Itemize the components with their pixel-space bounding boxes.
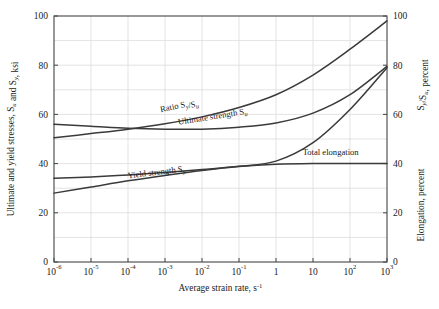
y-axis-right-lower-title: Elongation, percent — [416, 168, 426, 241]
svg-text:20: 20 — [393, 208, 403, 218]
curve-label: Total elongation — [303, 147, 360, 157]
svg-text:100: 100 — [34, 11, 49, 21]
svg-text:80: 80 — [393, 61, 403, 71]
svg-text:1: 1 — [274, 267, 279, 277]
svg-text:60: 60 — [393, 110, 403, 120]
svg-text:80: 80 — [39, 61, 49, 71]
svg-text:100: 100 — [393, 11, 408, 21]
svg-text:10: 10 — [308, 267, 318, 277]
svg-text:0: 0 — [43, 257, 48, 267]
strain-rate-chart: 00202040406060808010010010-610-510-410-3… — [0, 0, 439, 309]
chart-container: 00202040406060808010010010-610-510-410-3… — [0, 0, 439, 309]
svg-text:0: 0 — [393, 257, 398, 267]
svg-text:40: 40 — [393, 159, 403, 169]
x-axis-title: Average strain rate, s-1 — [179, 282, 263, 293]
svg-text:40: 40 — [39, 159, 49, 169]
svg-text:20: 20 — [39, 208, 49, 218]
svg-text:60: 60 — [39, 110, 49, 120]
chart-background — [0, 0, 439, 309]
